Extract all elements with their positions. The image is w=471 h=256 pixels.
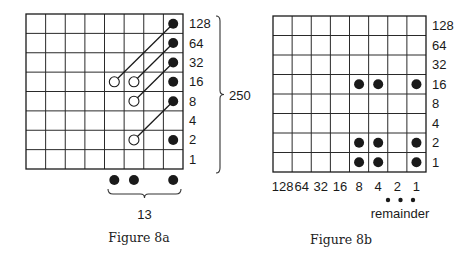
quotient-label: 13 — [137, 207, 151, 222]
remainder-label: remainder — [371, 206, 430, 221]
row-label: 32 — [432, 57, 446, 72]
bottom-brace — [108, 189, 181, 198]
column-label: 4 — [375, 179, 382, 194]
open-counter — [129, 96, 139, 106]
column-label: 8 — [355, 179, 362, 194]
row-label: 4 — [432, 116, 439, 131]
row-label: 16 — [189, 74, 203, 89]
quotient-counter — [168, 175, 178, 185]
column-label: 64 — [294, 179, 308, 194]
row-label: 8 — [432, 96, 439, 111]
quotient-counter — [109, 175, 119, 185]
filled-counter — [411, 138, 421, 148]
row-label: 16 — [432, 77, 446, 92]
filled-counter — [168, 135, 178, 145]
column-label: 128 — [272, 179, 294, 194]
filled-counter — [168, 19, 178, 29]
total-label: 250 — [229, 88, 251, 103]
filled-counter — [168, 77, 178, 87]
carry-connector — [137, 62, 173, 97]
open-counter — [129, 77, 139, 87]
row-label: 1 — [432, 155, 439, 170]
open-counter — [109, 77, 119, 87]
carry-connector — [137, 43, 173, 78]
row-label: 8 — [189, 94, 196, 109]
filled-counter — [411, 157, 421, 167]
row-label: 2 — [432, 135, 439, 150]
carry-connector — [137, 101, 173, 136]
remainder-dot — [411, 198, 415, 202]
filled-counter — [373, 79, 383, 89]
row-label: 2 — [189, 132, 196, 147]
row-label: 32 — [189, 55, 203, 70]
figure-8a: 128643216842125013Figure 8a — [26, 14, 251, 245]
filled-counter — [373, 157, 383, 167]
row-label: 4 — [189, 113, 196, 128]
filled-counter — [168, 57, 178, 67]
column-label: 1 — [413, 179, 420, 194]
row-label: 128 — [189, 16, 211, 31]
remainder-dot — [386, 198, 390, 202]
row-label: 64 — [189, 36, 203, 51]
row-label: 128 — [432, 18, 454, 33]
figure-8b: 12864321684211286432168421remainderFigur… — [272, 16, 454, 247]
row-label: 1 — [189, 152, 196, 167]
filled-counter — [373, 138, 383, 148]
figure-caption: Figure 8b — [310, 232, 372, 247]
filled-counter — [168, 38, 178, 48]
column-label: 2 — [394, 179, 401, 194]
filled-counter — [354, 157, 364, 167]
row-label: 64 — [432, 38, 446, 53]
column-label: 32 — [314, 179, 328, 194]
filled-counter — [411, 79, 421, 89]
filled-counter — [354, 138, 364, 148]
right-brace — [216, 16, 224, 173]
filled-counter — [354, 79, 364, 89]
quotient-counter — [129, 175, 139, 185]
open-counter — [129, 135, 139, 145]
filled-counter — [168, 96, 178, 106]
binary-division-diagrams: 128643216842125013Figure 8a 128643216842… — [0, 0, 471, 256]
figure-caption: Figure 8a — [108, 230, 170, 245]
column-label: 16 — [333, 179, 347, 194]
remainder-dot — [398, 198, 402, 202]
